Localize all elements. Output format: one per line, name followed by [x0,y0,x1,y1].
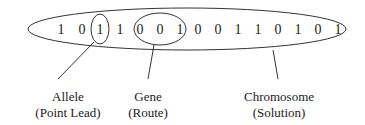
chromosome-label: Chromosome (Solution) [244,89,314,121]
gene-label-title: Gene [128,89,168,105]
bit-digit: 0 [193,22,203,38]
bit-digit: 1 [293,22,303,38]
chromosome-pointer-line [273,50,278,79]
bit-digit: 0 [213,22,223,38]
bit-digit: 1 [175,22,185,38]
bit-digit: 1 [253,22,263,38]
bit-digit: 1 [56,22,66,38]
bit-digit: 0 [77,22,87,38]
bit-digit: 1 [115,22,125,38]
allele-label-subtitle: (Point Lead) [35,105,100,121]
gene-label: Gene (Route) [128,89,168,121]
bit-digit: 0 [155,22,165,38]
bit-digit: 1 [333,22,343,38]
gene-pointer-line [148,45,154,79]
chromosome-label-subtitle: (Solution) [244,105,314,121]
allele-label: Allele (Point Lead) [35,89,100,121]
chromosome-label-title: Chromosome [244,89,314,105]
bit-digit: 1 [95,22,105,38]
bit-digit: 0 [313,22,323,38]
gene-label-subtitle: (Route) [128,105,168,121]
bit-digit: 0 [273,22,283,38]
bit-digit: 1 [233,22,243,38]
bit-digit: 0 [135,22,145,38]
allele-pointer-line [58,42,94,79]
allele-label-title: Allele [35,89,100,105]
